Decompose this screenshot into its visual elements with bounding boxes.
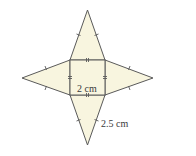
left-triangle-face: [22, 60, 70, 95]
slant-edge-label: 2.5 cm: [101, 118, 128, 129]
bottom-triangle-face: [70, 95, 105, 145]
pyramid-net-diagram: 2 cm 2.5 cm: [0, 0, 196, 156]
net-faces: [22, 10, 153, 145]
right-triangle-face: [105, 60, 153, 95]
top-triangle-face: [70, 10, 105, 60]
base-side-label: 2 cm: [77, 83, 97, 94]
